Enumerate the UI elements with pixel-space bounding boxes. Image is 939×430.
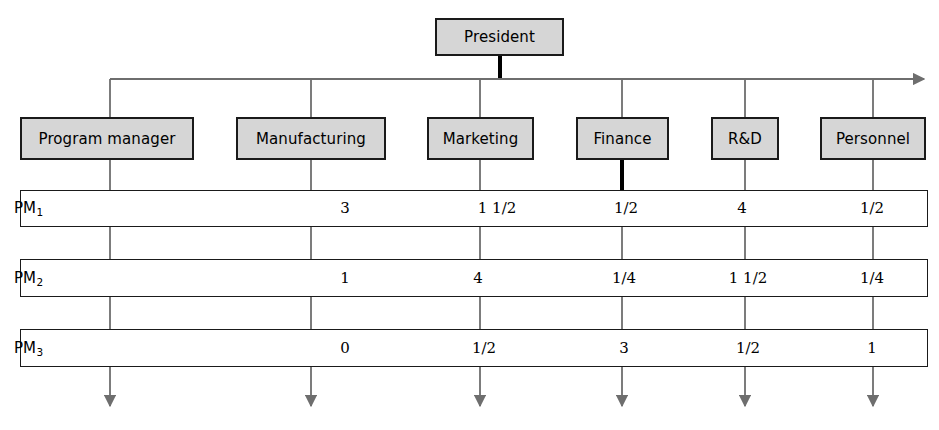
node-program-manager[interactable]: Program manager — [20, 117, 194, 160]
cell-pm1-rd: 4 — [737, 199, 747, 217]
row-label-pm2-subscript: 2 — [37, 276, 44, 288]
node-rd-label: R&D — [728, 130, 762, 148]
node-manufacturing[interactable]: Manufacturing — [236, 117, 386, 160]
node-program-manager-label: Program manager — [39, 130, 176, 148]
cell-pm3-personnel: 1 — [867, 339, 877, 357]
node-marketing[interactable]: Marketing — [427, 117, 534, 160]
row-label-pm3-subscript: 3 — [37, 346, 44, 358]
node-personnel[interactable]: Personnel — [820, 117, 926, 160]
node-personnel-label: Personnel — [836, 130, 910, 148]
node-marketing-label: Marketing — [443, 130, 519, 148]
cell-pm3-rd: 1/2 — [736, 339, 760, 357]
row-band-pm1[interactable] — [20, 190, 928, 227]
row-label-pm1-text: PM — [14, 199, 36, 217]
cell-pm2-personnel: 1/4 — [860, 269, 884, 287]
row-label-pm1-subscript: 1 — [37, 206, 44, 218]
row-label-pm3: PM3 — [14, 339, 43, 357]
cell-pm2-rd: 1 1/2 — [729, 269, 767, 287]
node-president[interactable]: President — [435, 18, 564, 56]
row-label-pm1: PM1 — [14, 199, 43, 217]
cell-pm2-finance: 1/4 — [612, 269, 636, 287]
cell-pm2-manufacturing: 1 — [340, 269, 350, 287]
node-president-label: President — [464, 28, 535, 46]
cell-pm3-finance: 3 — [619, 339, 629, 357]
cell-pm1-manufacturing: 3 — [340, 199, 350, 217]
node-finance[interactable]: Finance — [576, 117, 669, 160]
cell-pm3-marketing: 1/2 — [472, 339, 496, 357]
cell-pm2-marketing: 4 — [473, 269, 483, 287]
node-manufacturing-label: Manufacturing — [256, 130, 366, 148]
cell-pm1-marketing: 1 1/2 — [478, 199, 516, 217]
node-finance-label: Finance — [593, 130, 651, 148]
matrix-organization-chart: President Program manager Manufacturing … — [0, 0, 939, 430]
cell-pm1-personnel: 1/2 — [860, 199, 884, 217]
node-rd[interactable]: R&D — [711, 117, 779, 160]
row-label-pm2: PM2 — [14, 269, 43, 287]
cell-pm3-manufacturing: 0 — [340, 339, 350, 357]
row-label-pm3-text: PM — [14, 339, 36, 357]
cell-pm1-finance: 1/2 — [614, 199, 638, 217]
row-label-pm2-text: PM — [14, 269, 36, 287]
